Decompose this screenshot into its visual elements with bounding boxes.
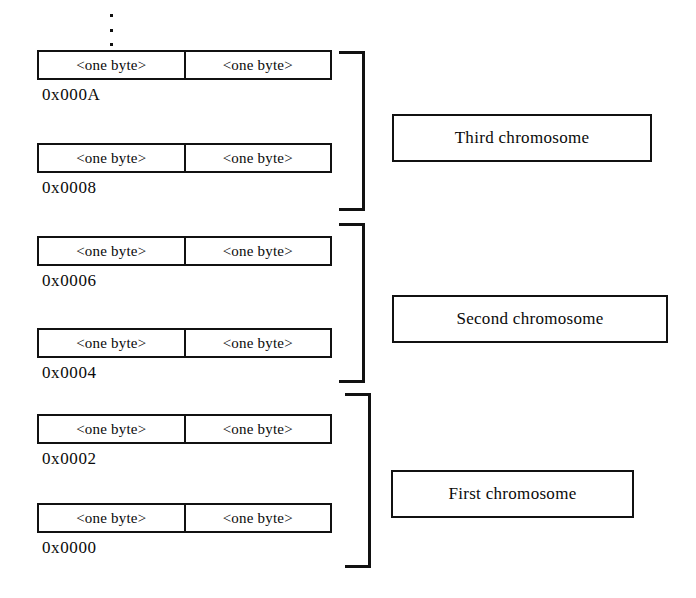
byte-cell-right: <one byte> <box>186 416 331 442</box>
address-label: 0x0008 <box>42 179 97 196</box>
address-label: 0x0002 <box>42 450 97 467</box>
byte-cell-right: <one byte> <box>186 52 331 78</box>
byte-cell-right: <one byte> <box>186 330 331 356</box>
memory-word-row: <one byte> <one byte> <box>37 143 332 173</box>
memory-word-row: <one byte> <one byte> <box>37 50 332 80</box>
ellipsis-dot <box>110 29 113 32</box>
memory-word-row: <one byte> <one byte> <box>37 236 332 266</box>
memory-layout-diagram: <one byte> <one byte> 0x000A <one byte> … <box>0 0 696 598</box>
chromosome-label-first: First chromosome <box>391 470 634 518</box>
byte-cell-left: <one byte> <box>39 238 186 264</box>
chromosome-label-second: Second chromosome <box>392 295 668 343</box>
byte-cell-left: <one byte> <box>39 330 186 356</box>
byte-cell-left: <one byte> <box>39 145 186 171</box>
group-bracket-third <box>339 51 365 211</box>
byte-cell-right: <one byte> <box>186 505 331 531</box>
address-label: 0x0004 <box>42 364 97 381</box>
address-label: 0x0000 <box>42 539 97 556</box>
memory-word-row: <one byte> <one byte> <box>37 328 332 358</box>
ellipsis-dot <box>110 14 113 17</box>
byte-cell-left: <one byte> <box>39 505 186 531</box>
byte-cell-right: <one byte> <box>186 145 331 171</box>
byte-cell-left: <one byte> <box>39 416 186 442</box>
address-label: 0x0006 <box>42 272 97 289</box>
ellipsis-dot <box>110 43 113 46</box>
group-bracket-second <box>339 223 365 383</box>
address-label: 0x000A <box>42 86 100 103</box>
byte-cell-left: <one byte> <box>39 52 186 78</box>
chromosome-label-third: Third chromosome <box>392 114 652 162</box>
memory-word-row: <one byte> <one byte> <box>37 414 332 444</box>
byte-cell-right: <one byte> <box>186 238 331 264</box>
memory-word-row: <one byte> <one byte> <box>37 503 332 533</box>
vertical-ellipsis-icon <box>106 14 116 46</box>
group-bracket-first <box>345 393 371 568</box>
